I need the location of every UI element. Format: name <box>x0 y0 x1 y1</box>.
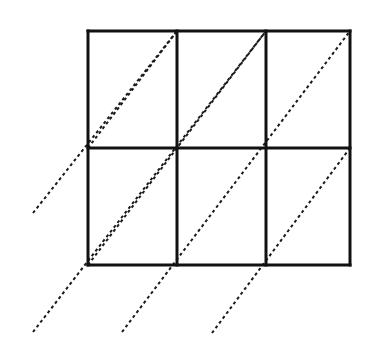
lattice-diagram <box>0 0 369 353</box>
figure-canvas <box>0 0 369 353</box>
canvas-background <box>0 0 369 353</box>
